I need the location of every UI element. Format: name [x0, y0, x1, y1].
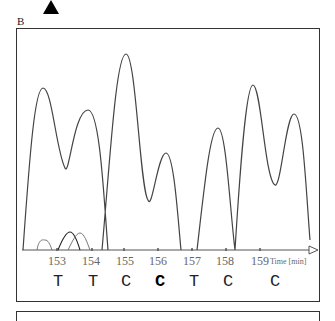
minor-trace-1 [37, 240, 52, 250]
x-axis-title: Time [min] [270, 257, 306, 266]
base-call: C [121, 272, 131, 291]
base-call: T [88, 272, 98, 291]
main-trace [23, 54, 310, 250]
tick-label-158: 158 [216, 254, 234, 269]
tick-label-155: 155 [116, 254, 134, 269]
base-call: T [189, 272, 199, 291]
tick-label-156: 156 [149, 254, 167, 269]
tick-label-154: 154 [82, 254, 100, 269]
base-call: T [53, 272, 63, 291]
base-call-highlighted: C [155, 272, 165, 291]
tick-label-159: 159 [251, 254, 269, 269]
axis-arrow-icon [309, 246, 318, 254]
base-call: C [223, 272, 233, 291]
base-call: C [270, 272, 280, 291]
tick-label-157: 157 [183, 254, 201, 269]
tick-label-153: 153 [48, 254, 66, 269]
